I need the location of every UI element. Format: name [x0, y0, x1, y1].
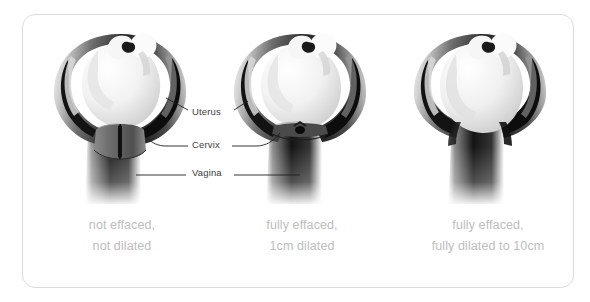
- figure-stage: Uterus Cervix Vagina not effaced, not di…: [0, 0, 590, 302]
- uterus-diagram-stage-2: [218, 26, 383, 206]
- illustration-panel-fully-dilated: [398, 26, 563, 206]
- label-cervix: Cervix: [192, 139, 220, 150]
- label-vagina: Vagina: [192, 167, 222, 178]
- caption-line-1: fully effaced,: [212, 215, 392, 236]
- caption-line-1: not effaced,: [32, 215, 212, 236]
- caption-line-1: fully effaced,: [388, 215, 588, 236]
- uterus-diagram-stage-3: [398, 26, 563, 206]
- illustration-panel-not-effaced: [38, 26, 203, 206]
- caption-panel-3: fully effaced, fully dilated to 10cm: [388, 215, 588, 257]
- uterus-diagram-stage-1: [38, 26, 203, 206]
- caption-panel-2: fully effaced, 1cm dilated: [212, 215, 392, 257]
- caption-panel-1: not effaced, not dilated: [32, 215, 212, 257]
- caption-line-2: fully dilated to 10cm: [388, 236, 588, 257]
- illustration-panel-fully-effaced-1cm: [218, 26, 383, 206]
- label-uterus: Uterus: [192, 106, 221, 117]
- caption-line-2: 1cm dilated: [212, 236, 392, 257]
- caption-line-2: not dilated: [32, 236, 212, 257]
